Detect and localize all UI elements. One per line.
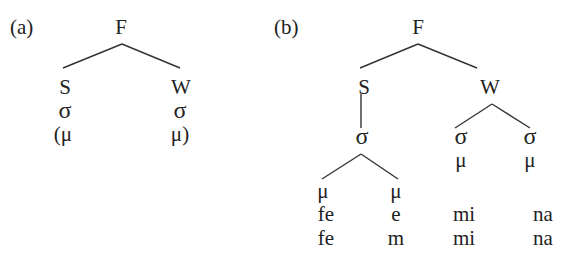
branch-a-f-w: [122, 44, 180, 68]
panel-a-mora-weak: μ): [171, 124, 189, 145]
panel-b-syllable-weak-2: σ: [524, 124, 537, 148]
panel-b-root-f: F: [412, 17, 424, 38]
panel-a-weak-w: W: [171, 77, 191, 98]
panel-b-mora-strong-1: μ: [317, 181, 328, 202]
panel-a-root-f: F: [115, 17, 127, 38]
panel-b-weak-w: W: [480, 77, 500, 98]
segment-row2-3: mi: [453, 228, 475, 249]
panel-b-syllable-strong: σ: [356, 124, 369, 148]
panel-a-label: (a): [10, 17, 33, 38]
segment-row1-1: fe: [318, 204, 334, 225]
segment-row1-3: mi: [453, 204, 475, 225]
panel-a-syllable-weak: σ: [174, 98, 187, 122]
branch-b-f-w: [418, 44, 477, 68]
panel-b-strong-s: S: [358, 77, 370, 98]
panel-a-syllable-strong: σ: [59, 98, 72, 122]
segment-row2-4: na: [533, 228, 553, 249]
segment-row2-1: fe: [318, 228, 334, 249]
segment-row1-4: na: [533, 204, 553, 225]
panel-b-label: (b): [274, 17, 299, 38]
branch-a-f-s: [63, 44, 122, 68]
panel-a-strong-s: S: [59, 77, 71, 98]
branch-b-sigma-mu1: [322, 154, 361, 179]
tree-branches: [0, 0, 567, 268]
segment-row1-2: e: [391, 204, 400, 225]
branch-b-sigma-mu2: [361, 154, 398, 179]
panel-b-syllable-weak-1: σ: [455, 124, 468, 148]
branch-b-f-s: [360, 44, 418, 68]
panel-b-mora-strong-2: μ: [390, 181, 401, 202]
segment-row2-2: m: [388, 228, 404, 249]
panel-a-mora-strong: (μ: [54, 124, 72, 145]
panel-b-mora-weak-1: μ: [455, 150, 466, 171]
panel-b-mora-weak-2: μ: [524, 150, 535, 171]
